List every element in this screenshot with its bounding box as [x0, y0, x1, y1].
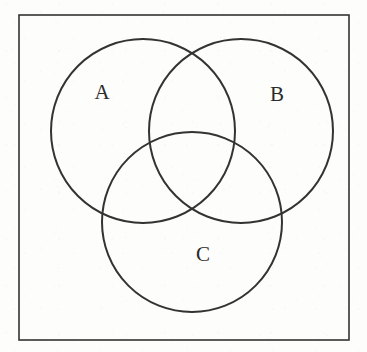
- set-label-c: C: [196, 244, 210, 265]
- universal-set-rectangle: [19, 15, 349, 340]
- venn-diagram-figure: A B C: [0, 0, 367, 352]
- set-circle-a: [51, 39, 235, 223]
- set-circle-b: [149, 39, 333, 223]
- set-label-a: A: [94, 82, 109, 103]
- set-label-b: B: [270, 84, 284, 105]
- venn-diagram-canvas: [0, 0, 367, 352]
